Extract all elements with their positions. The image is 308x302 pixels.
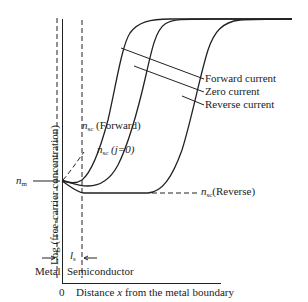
ls-label: ls xyxy=(70,250,76,263)
nsc-zero-label: nsc (j=0) xyxy=(97,144,134,157)
reverse-leader-line xyxy=(182,96,204,105)
x-axis-label: Distance x from the metal boundary xyxy=(76,287,234,298)
nsc-forward-dashed xyxy=(63,152,84,180)
forward-leader-line xyxy=(121,48,204,79)
origin-label: 0 xyxy=(59,287,65,298)
nsc-reverse-label: nsc(Reverse) xyxy=(201,186,255,199)
legend-zero-current: Zero current xyxy=(205,86,260,97)
diagram-svg xyxy=(0,0,308,302)
metal-label: Metal xyxy=(35,266,61,277)
diagram-canvas: nm Log (free-carrier concentration) nsc … xyxy=(0,0,308,302)
legend-reverse-current: Reverse current xyxy=(205,99,274,110)
nsc-forward-label: nsc (Forward) xyxy=(82,120,141,133)
semiconductor-label: Semiconductor xyxy=(67,266,134,277)
y-axis-label: Log (free-carrier concentration) xyxy=(48,125,60,265)
legend-forward-current: Forward current xyxy=(205,73,276,84)
nm-label: nm xyxy=(16,175,27,188)
